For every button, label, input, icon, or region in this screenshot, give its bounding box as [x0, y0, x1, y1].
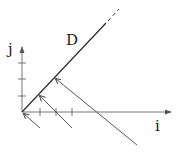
horizontal-axis-label: i: [155, 119, 160, 134]
line-d-solid: [22, 23, 106, 112]
projection-diagram: [0, 0, 178, 152]
line-d-label: D: [66, 33, 78, 48]
line-d-dashed: [108, 9, 119, 21]
projection-arrow-1: [24, 114, 40, 128]
vertical-axis-label: j: [8, 42, 13, 57]
